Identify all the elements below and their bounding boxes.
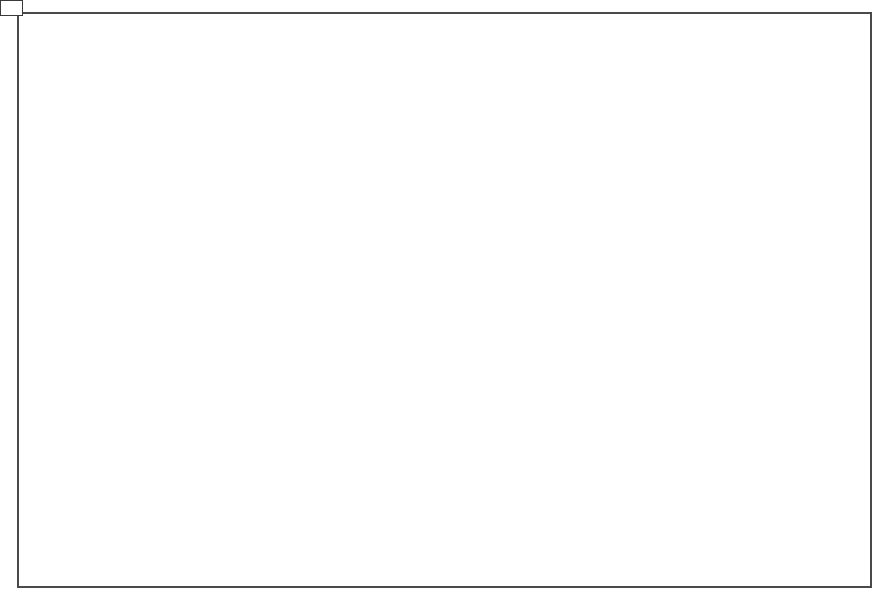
chart-canvas — [0, 0, 891, 598]
chart-frame — [17, 12, 872, 588]
legend-responded — [0, 0, 23, 16]
